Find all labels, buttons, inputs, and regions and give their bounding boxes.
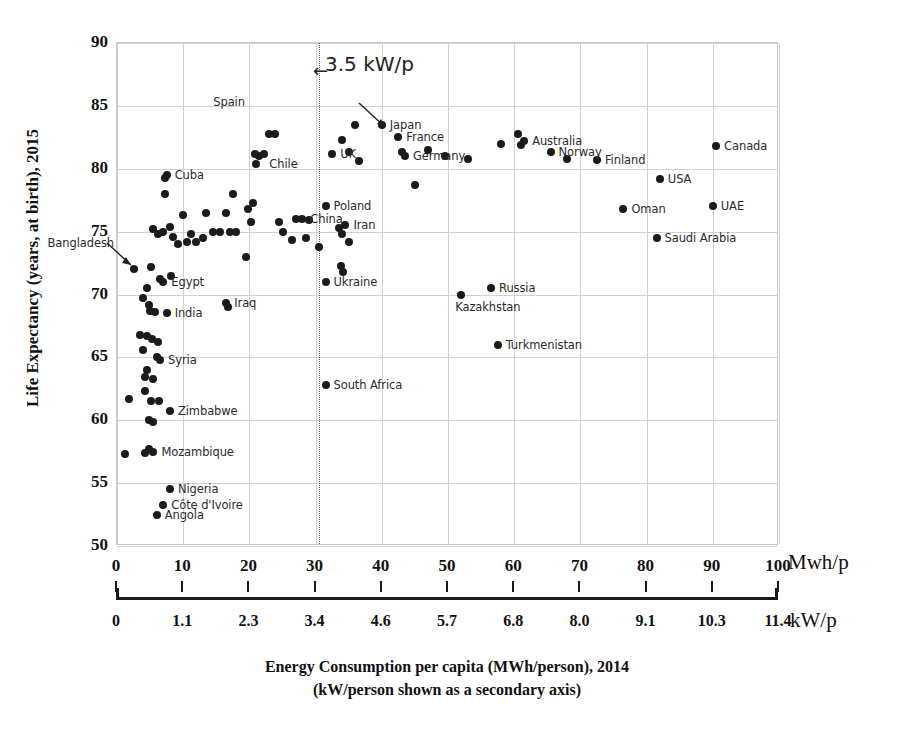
gridline-vertical	[316, 43, 317, 544]
data-point-label: Finland	[605, 153, 645, 167]
gridline-vertical	[382, 43, 383, 544]
data-point-label: Oman	[631, 202, 665, 216]
x-axis-title-line2: (kW/person shown as a secondary axis)	[116, 678, 778, 701]
x-axis-secondary-unit: kW/p	[790, 608, 837, 633]
data-point-label: USA	[668, 172, 692, 186]
x-axis-secondary-tick-label: 10.3	[698, 612, 726, 630]
x-axis-tick-mark	[314, 581, 316, 592]
x-axis-tick-label: 100	[765, 556, 791, 576]
data-point-label: Angola	[165, 508, 204, 522]
y-axis-title: Life Expectancy (years, at birth), 2015	[23, 68, 43, 468]
data-point	[338, 136, 346, 144]
gridline-vertical	[647, 43, 648, 544]
gridline-horizontal	[117, 169, 777, 170]
data-point	[153, 511, 161, 519]
data-point-label: Turkmenistan	[506, 338, 582, 352]
data-point	[351, 121, 359, 129]
data-point	[242, 253, 250, 261]
data-point	[328, 150, 336, 158]
data-point	[709, 202, 717, 210]
data-point	[156, 275, 164, 283]
x-axis-tick-label: 30	[306, 556, 323, 576]
data-point	[247, 218, 255, 226]
threshold-label: 3.5 kW/p	[325, 52, 414, 76]
data-point-label: Canada	[724, 139, 767, 153]
data-point	[149, 375, 157, 383]
x-axis-tick-mark	[645, 581, 647, 592]
gridline-horizontal	[117, 295, 777, 296]
gridline-vertical	[580, 43, 581, 544]
data-point-label: Zimbabwe	[178, 404, 238, 418]
data-point	[517, 141, 525, 149]
data-point	[315, 243, 323, 251]
data-point	[275, 218, 283, 226]
y-axis-tick-label: 50	[68, 535, 108, 555]
data-point	[338, 230, 346, 238]
x-axis-tick-label: 60	[505, 556, 522, 576]
gridline-horizontal	[117, 546, 777, 547]
data-point	[288, 236, 296, 244]
data-point-label: Chile	[269, 157, 297, 171]
data-point	[322, 278, 330, 286]
data-point-label: Egypt	[171, 275, 204, 289]
data-point	[174, 240, 182, 248]
data-point	[161, 174, 169, 182]
x-axis-tick-label: 50	[439, 556, 456, 576]
data-point	[130, 265, 138, 273]
x-axis-secondary-tick-label: 6.8	[503, 612, 523, 630]
x-axis-tick-mark	[711, 581, 713, 592]
data-point-label: Saudi Arabia	[665, 231, 737, 245]
data-point	[147, 263, 155, 271]
data-point	[252, 160, 260, 168]
x-axis-secondary-tick-label: 1.1	[172, 612, 192, 630]
data-point	[653, 234, 661, 242]
data-point	[378, 121, 386, 129]
data-point	[149, 418, 157, 426]
data-point-label: Russia	[499, 281, 535, 295]
x-axis-tick-mark	[181, 581, 183, 592]
gridline-vertical	[448, 43, 449, 544]
x-axis-primary-ticks: 0102030405060708090100	[116, 556, 778, 602]
data-point	[155, 397, 163, 405]
data-point	[712, 142, 720, 150]
plot-area: BangladeshCubaSpainChileUKJapanFranceGer…	[116, 42, 778, 545]
data-point-label: UK	[340, 147, 356, 161]
x-axis-tick-label: 70	[571, 556, 588, 576]
x-axis-secondary-tick-label: 5.7	[437, 612, 457, 630]
data-point-label: Spain	[213, 95, 245, 109]
data-point	[199, 234, 207, 242]
gridline-horizontal	[117, 43, 777, 44]
data-point	[244, 205, 252, 213]
gridline-horizontal	[117, 420, 777, 421]
data-point	[398, 148, 406, 156]
data-point-label: Iran	[353, 218, 375, 232]
y-axis-tick-label: 55	[68, 472, 108, 492]
x-axis-primary-unit: Mwh/p	[788, 550, 849, 575]
data-point-label: South Africa	[334, 378, 403, 392]
data-point	[547, 148, 555, 156]
y-axis-tick-label: 80	[68, 158, 108, 178]
gridline-vertical	[779, 43, 780, 544]
x-axis-tick-label: 80	[637, 556, 654, 576]
data-point-label: Bangladesh	[48, 236, 114, 250]
data-point	[251, 150, 259, 158]
data-point	[229, 190, 237, 198]
data-point-label: Syria	[168, 353, 197, 367]
data-point	[279, 228, 287, 236]
x-axis-secondary-tick-label: 8.0	[569, 612, 589, 630]
data-point	[494, 341, 502, 349]
x-axis-tick-mark	[446, 581, 448, 592]
data-point	[166, 485, 174, 493]
x-axis-rule	[116, 597, 778, 600]
gridline-vertical	[183, 43, 184, 544]
data-point	[141, 373, 149, 381]
x-axis-secondary-tick-label: 0	[112, 612, 120, 630]
data-point-label: Cuba	[175, 168, 204, 182]
x-axis-tick-label: 0	[112, 556, 121, 576]
data-point	[145, 445, 153, 453]
x-axis-secondary-tick-label: 2.3	[238, 612, 258, 630]
data-point-label: Nigeria	[178, 482, 218, 496]
x-axis-secondary-tick-label: 11.4	[764, 612, 791, 630]
data-point	[497, 140, 505, 148]
data-point	[179, 211, 187, 219]
